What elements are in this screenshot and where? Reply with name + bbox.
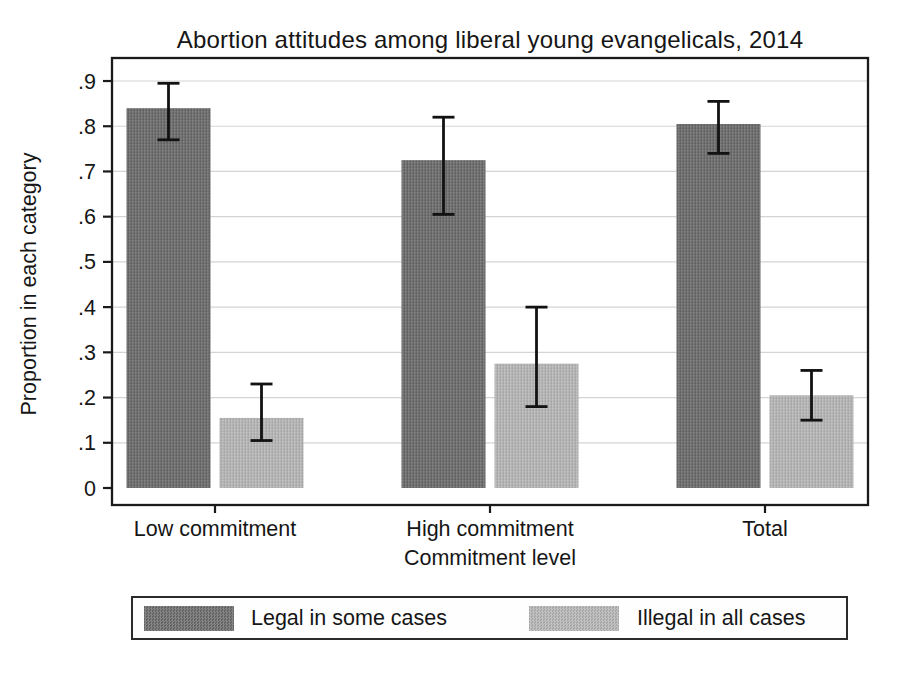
x-category-label: High commitment bbox=[406, 517, 573, 541]
plot-area: 0.1.2.3.4.5.6.7.8.9 Low commitmentHigh c… bbox=[0, 0, 911, 682]
y-tick-label: .2 bbox=[78, 386, 96, 410]
figure: Abortion attitudes among liberal young e… bbox=[0, 0, 911, 682]
legend-box: Legal in some cases Illegal in all cases bbox=[131, 596, 848, 640]
y-tick-label: .9 bbox=[78, 70, 96, 94]
y-tick-label: .1 bbox=[78, 431, 96, 455]
x-category-label: Total bbox=[742, 517, 787, 541]
legend-swatch-legal-in-some-cases bbox=[144, 606, 234, 631]
y-tick-label: .3 bbox=[78, 341, 96, 365]
y-tick-label: 0 bbox=[84, 477, 96, 501]
y-tick-label: .4 bbox=[78, 296, 96, 320]
x-category-label: Low commitment bbox=[134, 517, 297, 541]
y-tick-label: .7 bbox=[78, 160, 96, 184]
legend-label-illegal-in-all-cases: Illegal in all cases bbox=[637, 598, 806, 638]
legend-label-legal-in-some-cases: Legal in some cases bbox=[251, 598, 447, 638]
legend-swatch-illegal-in-all-cases bbox=[529, 606, 619, 631]
y-tick-label: .5 bbox=[78, 250, 96, 274]
bar-legal-total-texture bbox=[677, 124, 761, 488]
y-tick-label: .6 bbox=[78, 205, 96, 229]
bar-legal-low-commitment-texture bbox=[127, 108, 211, 488]
y-tick-label: .8 bbox=[78, 115, 96, 139]
x-axis-title: Commitment level bbox=[112, 546, 868, 571]
